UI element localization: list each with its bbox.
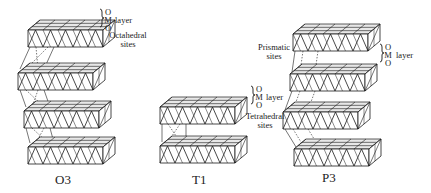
t1-omo-letters: O M O bbox=[254, 85, 264, 109]
p3-slab-1 bbox=[293, 24, 380, 51]
o3-site-label: Octahedral sites bbox=[103, 31, 153, 49]
o3-slab-3 bbox=[24, 101, 111, 128]
p3-slab-4 bbox=[294, 139, 381, 166]
layered-structure-diagram bbox=[0, 0, 431, 193]
interlayer-site-line bbox=[26, 128, 30, 143]
t1-slab-2 bbox=[160, 136, 247, 163]
p3-omo-letters: O M O bbox=[383, 43, 393, 67]
o3-omo-letters: O M O bbox=[103, 8, 113, 32]
p3-site-label: Prismatic sites bbox=[250, 43, 298, 61]
p3-slab-2 bbox=[290, 64, 377, 91]
o3-slab-4 bbox=[28, 137, 115, 164]
interlayer-site-line bbox=[20, 90, 26, 107]
p3-slab-3 bbox=[283, 102, 370, 129]
p3-caption: P3 bbox=[322, 170, 336, 186]
o3-layer-word: layer bbox=[115, 16, 132, 25]
t1-caption: T1 bbox=[192, 172, 206, 188]
t1-layer-word: layer bbox=[266, 93, 283, 102]
p3-layer-word: layer bbox=[396, 51, 413, 60]
t1-slab-1 bbox=[160, 97, 247, 124]
t1-site-label: Tetrahedral sites bbox=[238, 112, 292, 130]
o3-slab-2 bbox=[18, 63, 105, 90]
o3-caption: O3 bbox=[55, 172, 71, 188]
